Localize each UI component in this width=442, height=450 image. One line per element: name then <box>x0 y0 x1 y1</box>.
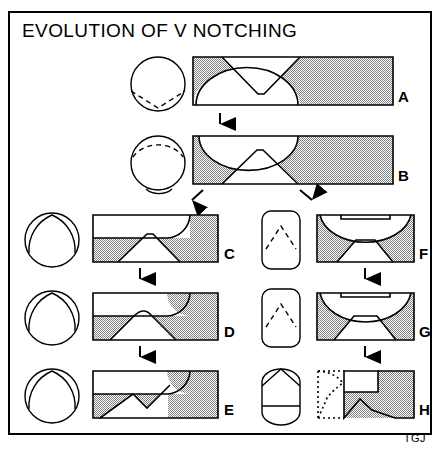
stage-label-e: E <box>224 401 234 418</box>
stage-label-g: G <box>419 323 431 340</box>
stage-label-b: B <box>398 167 409 184</box>
stage-label-c: C <box>224 245 235 262</box>
stage-label-f: F <box>419 245 428 262</box>
stage-label-a: A <box>398 88 409 105</box>
artist-credit: TGJ <box>404 432 426 444</box>
figure-border <box>8 11 432 435</box>
figure-root: EVOLUTION OF V NOTCHING <box>0 0 442 450</box>
figure-title: EVOLUTION OF V NOTCHING <box>22 20 297 42</box>
stage-label-d: D <box>224 323 235 340</box>
stage-label-h: H <box>419 401 430 418</box>
